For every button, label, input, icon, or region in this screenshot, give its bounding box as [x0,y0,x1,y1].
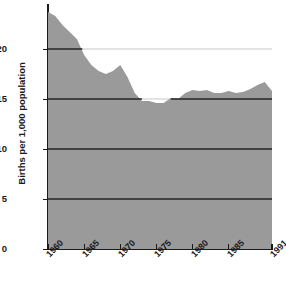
y-tick-label-5: 5 [0,193,7,204]
y-tick-label-10: 10 [0,143,7,154]
x-tick-mark-1975 [156,244,157,249]
x-tick-mark-1980 [192,244,193,249]
y-tick-label-20: 20 [0,43,7,54]
birth-rate-area-chart: Births per 1,000 population 0 5 10 15 20… [0,0,286,289]
y-tick-label-15: 15 [0,93,7,104]
x-tick-mark-1991 [271,244,272,249]
y-axis-title: Births per 1,000 population [16,19,27,229]
y-tick-mark-15 [43,99,47,101]
y-tick-mark-20 [43,49,47,51]
x-tick-mark-1965 [84,244,85,249]
y-tick-mark-5 [43,199,47,201]
x-tick-mark-1985 [228,244,229,249]
y-tick-mark-10 [43,149,47,151]
plot-area [48,4,272,249]
x-tick-mark-1970 [120,244,121,249]
area-fill-path [48,12,272,249]
y-tick-label-0: 0 [0,243,7,254]
x-tick-mark-1960 [47,244,48,249]
area-series-svg [48,4,272,249]
